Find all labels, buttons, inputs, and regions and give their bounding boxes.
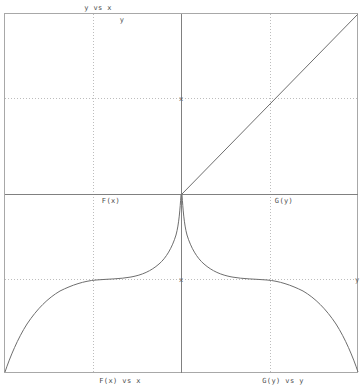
label-F-of-x: F(x) [102, 197, 120, 205]
axis-label-y-top: y [120, 16, 125, 24]
four-quadrant-plot-svg: y vs x y F(x) G(y) x x y F(x) vs x G(y) … [0, 0, 363, 388]
title-y-vs-x: y vs x [84, 4, 112, 12]
tick-label-y-right: y [355, 276, 359, 284]
tick-label-x-upper: x [179, 95, 183, 103]
label-G-of-y-vs-y: G(y) vs y [262, 377, 304, 385]
label-G-of-y: G(y) [275, 197, 293, 205]
identity-diagonal-line [182, 15, 358, 195]
tick-label-x-lower: x [179, 276, 183, 284]
plot-figure: y vs x y F(x) G(y) x x y F(x) vs x G(y) … [0, 0, 363, 388]
label-F-of-x-vs-x: F(x) vs x [99, 377, 141, 385]
